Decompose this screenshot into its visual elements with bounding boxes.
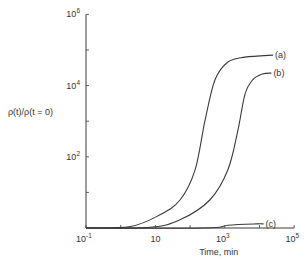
y-tick-label: 104: [66, 79, 80, 91]
chart: 10210410610-110103105Time, minρ(t)/ρ(t =…: [0, 0, 307, 260]
curves: [86, 55, 273, 228]
curve-b: [86, 73, 271, 228]
x-axis-title: Time, min: [199, 247, 238, 257]
x-tick-label: 10-1: [76, 232, 92, 244]
curve-a: [86, 55, 273, 228]
curve-label-a: (a): [275, 50, 286, 60]
curve-label-b: (b): [273, 68, 284, 78]
y-tick-label: 102: [66, 150, 80, 162]
x-tick-label: 103: [216, 232, 230, 244]
x-tick-label: 10: [150, 234, 160, 244]
y-axis-title: ρ(t)/ρ(t = 0): [8, 107, 53, 117]
y-tick-label: 106: [66, 7, 80, 19]
x-tick-label: 105: [285, 232, 299, 244]
curve-label-c: (c): [265, 219, 276, 229]
labels: 10210410610-110103105Time, minρ(t)/ρ(t =…: [8, 7, 299, 257]
axes: [86, 14, 294, 228]
